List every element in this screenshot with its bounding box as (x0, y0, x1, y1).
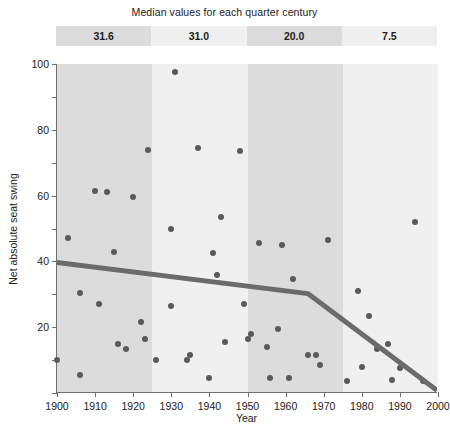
x-tick-label: 1970 (312, 400, 335, 412)
x-tick-label: 1960 (274, 400, 297, 412)
x-tick-label: 1980 (350, 400, 373, 412)
x-tick (57, 392, 58, 397)
x-tick (286, 392, 287, 397)
y-axis-label-text: Net absolute seat swing (7, 173, 19, 284)
x-tick (95, 392, 96, 397)
median-values-title: Median values for each quarter century (0, 6, 449, 18)
y-tick-label: 80 (37, 124, 49, 136)
median-band-2: 31.0 (151, 26, 246, 46)
y-tick-label: 40 (37, 255, 49, 267)
x-tick (209, 392, 210, 397)
caption-fragment (0, 428, 449, 434)
median-band-value: 20.0 (284, 30, 304, 42)
x-tick-label: 1910 (83, 400, 106, 412)
median-band-row: 31.631.020.07.5 (56, 26, 437, 46)
x-tick (248, 392, 249, 397)
x-tick (171, 392, 172, 397)
median-band-1: 31.6 (56, 26, 151, 46)
x-tick (438, 392, 439, 397)
plot-area: 2040608010019001910192019301940195019601… (56, 64, 437, 393)
median-band-value: 31.0 (189, 30, 209, 42)
x-tick (362, 392, 363, 397)
median-band-4: 7.5 (342, 26, 437, 46)
x-tick-label: 1940 (198, 400, 221, 412)
x-tick-label: 1900 (45, 400, 68, 412)
x-tick (400, 392, 401, 397)
median-band-value: 7.5 (382, 30, 397, 42)
x-tick-label: 2000 (426, 400, 449, 412)
y-tick-label: 100 (31, 58, 49, 70)
x-tick-label: 1990 (388, 400, 411, 412)
x-tick (133, 392, 134, 397)
x-axis-label: Year (56, 412, 437, 424)
y-tick-label: 20 (37, 321, 49, 333)
x-tick-label: 1930 (160, 400, 183, 412)
x-tick-label: 1920 (122, 400, 145, 412)
x-tick-label: 1950 (236, 400, 259, 412)
x-tick (324, 392, 325, 397)
y-axis-label: Net absolute seat swing (6, 64, 20, 393)
y-tick-label: 60 (37, 190, 49, 202)
median-band-value: 31.6 (93, 30, 113, 42)
median-band-3: 20.0 (247, 26, 342, 46)
trend-line (57, 64, 437, 392)
